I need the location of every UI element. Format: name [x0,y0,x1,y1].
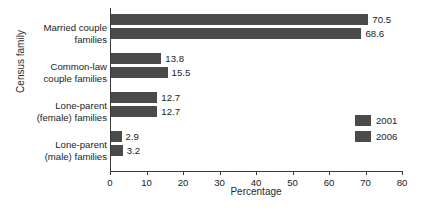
bar-value-label: 68.6 [365,28,384,39]
x-axis-tick [329,171,330,175]
x-axis-tick [293,171,294,175]
x-axis-tick [220,171,221,175]
category-label-lone-parent-male-families: Lone-parent (male) families [8,139,107,162]
category-label-common-law-couple-families: Common-law couple families [8,61,107,84]
x-axis-tick [183,171,184,175]
bar-value-label: 12.7 [161,92,180,103]
bar [111,106,157,117]
bar [111,67,168,78]
category-label-line: Lone-parent [8,139,107,151]
x-axis-title: Percentage [110,186,402,197]
bar-value-label: 2.9 [126,131,139,142]
category-label-line: couple families [8,73,107,85]
category-label-lone-parent-female-families: Lone-parent (female) families [8,100,107,123]
legend-item-2001: 2001 [355,112,397,128]
x-axis-tick [366,171,367,175]
bar-value-label: 15.5 [172,67,191,78]
bar [111,145,123,156]
bar [111,53,161,64]
legend-label-2006: 2006 [376,131,397,142]
x-axis-tick [147,171,148,175]
category-label-married-couple-families: Married couple families [8,22,107,45]
bar-value-label: 3.2 [127,145,140,156]
bar-chart: Census family Married couple families Co… [0,0,426,210]
category-label-line: (female) families [8,112,107,124]
bar-value-label: 13.8 [165,53,184,64]
bar-value-label: 12.7 [161,106,180,117]
plot-area: 01020304050607080 70.568.613.815.512.712… [110,8,402,171]
bar [111,92,157,103]
category-label-line: (male) families [8,151,107,163]
bar-value-label: 70.5 [372,14,391,25]
category-label-line: families [8,34,107,46]
x-axis-tick [402,171,403,175]
bar [111,14,368,25]
category-label-line: Lone-parent [8,100,107,112]
legend-swatch-2001 [355,115,371,126]
legend-swatch-2006 [355,131,371,142]
x-axis-tick [256,171,257,175]
category-label-line: Married couple [8,22,107,34]
category-label-group: Married couple families Common-law coupl… [8,8,107,168]
legend-item-2006: 2006 [355,128,397,144]
bar [111,28,361,39]
legend-label-2001: 2001 [376,115,397,126]
category-label-line: Common-law [8,61,107,73]
x-axis-tick [110,171,111,175]
legend: 2001 2006 [355,112,397,144]
bar [111,131,122,142]
